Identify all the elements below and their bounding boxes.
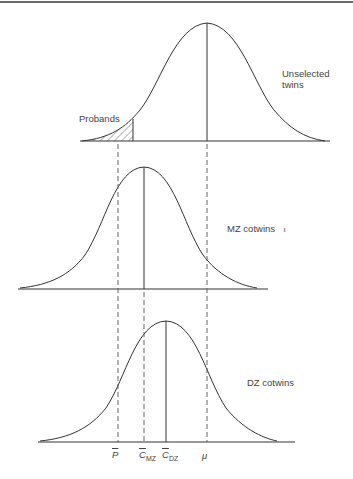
population-mean-label: μ: [202, 450, 207, 461]
mz-cotwin-mean-label: CMZ: [139, 449, 156, 462]
dz-cotwin-mean-label: CDZ: [162, 449, 178, 462]
stray-mark: ι: [284, 225, 286, 234]
mz-cotwins-text: MZ cotwins: [227, 223, 275, 234]
probands-label: Probands: [79, 113, 120, 124]
unselected-twins-label: Unselected twins: [282, 68, 330, 90]
mz-cotwins-label: MZ cotwins ι: [227, 223, 285, 235]
unselected-label-line2: twins: [282, 79, 330, 90]
dz-cotwins-label: DZ cotwins: [247, 377, 294, 388]
proband-mean-label: P: [112, 449, 118, 460]
unselected-label-line1: Unselected: [282, 68, 330, 79]
